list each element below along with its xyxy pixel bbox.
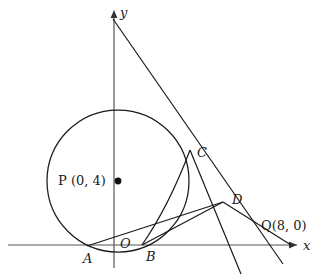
label-point-D: D bbox=[232, 193, 242, 206]
line-C-to-D-extended bbox=[190, 150, 241, 274]
label-axis-y: y bbox=[120, 6, 127, 19]
geometry-svg bbox=[0, 0, 327, 280]
y-axis bbox=[111, 10, 118, 268]
segment-A-to-D bbox=[87, 202, 223, 246]
geometry-figure-canvas: P (0, 4) A B C D O Q(8, 0) x y bbox=[0, 0, 327, 280]
label-point-A: A bbox=[83, 252, 92, 265]
tangent-line-through-C bbox=[113, 19, 283, 264]
label-point-B: B bbox=[146, 250, 156, 263]
segment-B-to-D bbox=[142, 202, 223, 245]
label-center-P: P (0, 4) bbox=[58, 174, 106, 187]
label-point-Q: Q(8, 0) bbox=[261, 219, 307, 232]
center-point-dot bbox=[115, 178, 122, 185]
label-point-C: C bbox=[197, 146, 207, 159]
label-axis-x: x bbox=[303, 239, 310, 252]
label-origin-O: O bbox=[120, 237, 131, 250]
arc-C-to-B bbox=[142, 150, 190, 245]
